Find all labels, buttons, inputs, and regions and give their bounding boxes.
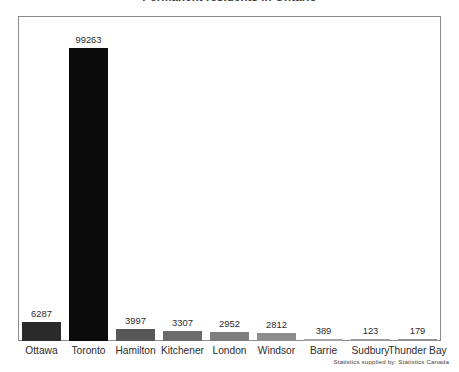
chart-title: Permanent residents in Ontario <box>0 0 459 4</box>
bar-rect <box>398 339 437 341</box>
bar-rect <box>22 322 61 341</box>
bar-rect <box>69 48 108 341</box>
bar-value-label: 2952 <box>219 318 240 329</box>
bars-layer: 6287992633997330729522812389123179 <box>18 16 441 341</box>
bar-rect <box>116 329 155 341</box>
bar-rect <box>210 332 249 341</box>
bar-rect <box>163 331 202 341</box>
bar-kitchener: 3307 <box>163 16 202 341</box>
bar-value-label: 123 <box>363 325 379 336</box>
bar-london: 2952 <box>210 16 249 341</box>
bar-windsor: 2812 <box>257 16 296 341</box>
bar-rect <box>304 339 343 341</box>
bar-value-label: 179 <box>410 325 426 336</box>
source-note: Statistics supplied by: Statistics Canad… <box>333 358 449 365</box>
bar-value-label: 3307 <box>172 317 193 328</box>
bar-barrie: 389 <box>304 16 343 341</box>
bar-toronto: 99263 <box>69 16 108 341</box>
bar-value-label: 99263 <box>75 34 101 45</box>
bar-rect <box>351 339 390 341</box>
bar-sudbury: 123 <box>351 16 390 341</box>
bar-thunder-bay: 179 <box>398 16 437 341</box>
bar-ottawa: 6287 <box>22 16 61 341</box>
x-tick-thunder-bay: Thunder Bay <box>388 344 447 358</box>
bar-hamilton: 3997 <box>116 16 155 341</box>
bar-value-label: 6287 <box>31 308 52 319</box>
bar-value-label: 389 <box>316 325 332 336</box>
bar-rect <box>257 333 296 341</box>
bar-value-label: 3997 <box>125 315 146 326</box>
bar-value-label: 2812 <box>266 319 287 330</box>
